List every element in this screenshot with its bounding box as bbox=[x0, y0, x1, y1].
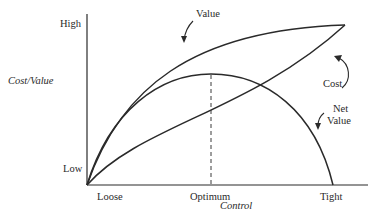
net-annotation-line1: Net bbox=[333, 104, 348, 115]
value-curve bbox=[87, 25, 345, 185]
y-tick-low: Low bbox=[63, 164, 82, 175]
y-tick-high: High bbox=[60, 19, 81, 30]
value-annotation: Value bbox=[196, 9, 220, 20]
x-tick-loose: Loose bbox=[97, 192, 123, 203]
x-tick-tight: Tight bbox=[320, 192, 342, 203]
cost-annotation: Cost bbox=[323, 79, 342, 90]
cost-value-diagram bbox=[0, 0, 375, 214]
value-arrowhead-icon bbox=[181, 36, 187, 43]
cost-curve bbox=[87, 25, 345, 185]
net-annotation-line2: Value bbox=[327, 116, 351, 127]
y-axis-label: Cost/Value bbox=[8, 76, 54, 87]
net-value-curve bbox=[87, 74, 333, 185]
x-axis-label: Control bbox=[220, 201, 252, 212]
net-value-arrowhead-icon bbox=[315, 123, 321, 130]
